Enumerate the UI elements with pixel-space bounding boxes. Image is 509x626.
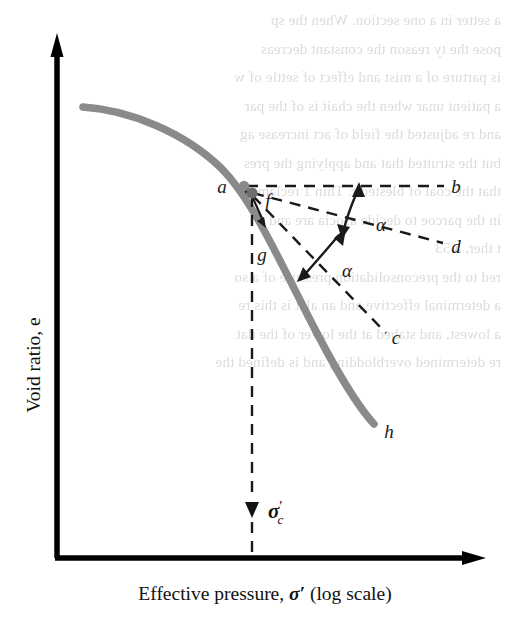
label-curve-end-h: h — [384, 421, 394, 442]
sigma-c-arrow-marker — [245, 502, 259, 518]
x-axis-label-suffix: (log scale) — [305, 583, 392, 605]
label-alpha-upper: α — [376, 214, 387, 235]
y-axis-label-text: Void ratio, e — [23, 317, 44, 413]
sigma-c-subscript: c — [278, 512, 284, 527]
label-ray-c: c — [392, 327, 401, 348]
y-axis-arrowhead — [51, 33, 64, 57]
x-axis-label-sigma: σ′ — [289, 583, 305, 604]
label-ray-d: d — [451, 236, 461, 257]
angle-arc-alpha-upper-arrowhead-top — [352, 182, 365, 197]
label-point-f: f — [265, 190, 273, 211]
sigma-c-label: σ′c — [268, 498, 284, 527]
x-axis-label: Effective pressure, σ′ (log scale) — [138, 583, 391, 605]
label-point-a: a — [217, 176, 227, 197]
compression-curve — [83, 107, 374, 424]
x-axis-label-group: Effective pressure, σ′ (log scale) — [138, 583, 391, 605]
line-f-to-c — [253, 196, 386, 333]
y-axis-label-group: Void ratio, e — [23, 317, 44, 413]
figure-casagrande-construction: Void ratio, e Effective pressure, σ′ (lo… — [0, 0, 509, 626]
angle-arc-alpha-upper — [344, 192, 357, 229]
x-axis-arrowhead — [462, 551, 486, 565]
x-axis-label-prefix: Effective pressure, — [138, 583, 289, 604]
angle-arcs — [297, 182, 365, 282]
y-axis-label: Void ratio, e — [23, 317, 44, 413]
label-point-g: g — [257, 244, 267, 265]
label-alpha-lower: α — [342, 260, 353, 281]
point-marker-f — [246, 187, 257, 198]
label-ray-b: b — [451, 176, 461, 197]
